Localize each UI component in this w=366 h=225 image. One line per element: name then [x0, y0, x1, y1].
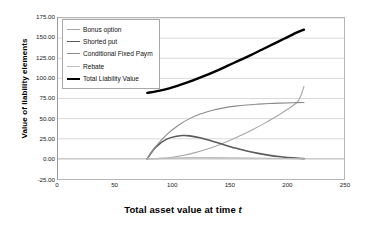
x-axis-title-text: Total asset value at time — [124, 204, 238, 215]
x-tick-label: 50 — [100, 182, 130, 188]
legend-item-label: Total Liability Value — [83, 75, 139, 82]
legend-item-label: Rebate — [83, 63, 104, 70]
y-tick-label: 0.00 — [15, 156, 55, 162]
legend-swatch-line-icon — [67, 29, 80, 30]
series-line — [147, 30, 304, 93]
series-line — [147, 103, 304, 159]
y-tick-label: 175.00 — [15, 14, 55, 20]
legend-item: Total Liability Value — [67, 73, 153, 85]
x-axis-tick-labels: 050100150200250 — [57, 182, 345, 194]
legend-swatch-line-icon — [67, 53, 80, 54]
y-tick-label: 75.00 — [15, 95, 55, 101]
x-axis-title-variable: t — [239, 204, 242, 215]
x-tick-label: 250 — [330, 182, 360, 188]
y-axis-tick-labels: -25.000.0025.0050.0075.00100.00125.00150… — [11, 17, 55, 180]
x-tick-label: 0 — [42, 182, 72, 188]
x-tick-label: 200 — [272, 182, 302, 188]
y-tick-label: 100.00 — [15, 75, 55, 81]
legend-item: Bonus option — [67, 23, 153, 35]
legend-item-label: Shorted put — [83, 38, 117, 45]
legend-item: Shorted put — [67, 35, 153, 47]
legend-swatch-line-icon — [67, 41, 80, 42]
legend-swatch-line-icon — [67, 66, 80, 67]
legend-item-label: Conditional Fixed Paym — [83, 50, 153, 57]
y-tick-label: 50.00 — [15, 116, 55, 122]
x-tick-label: 100 — [157, 182, 187, 188]
series-line — [147, 86, 304, 158]
legend-swatch-line-icon — [67, 78, 80, 80]
legend-item: Rebate — [67, 60, 153, 72]
legend-item: Conditional Fixed Paym — [67, 48, 153, 60]
x-tick-label: 150 — [215, 182, 245, 188]
liability-elements-chart: Value of liability elements -25.000.0025… — [0, 0, 366, 225]
chart-legend: Bonus optionShorted putConditional Fixed… — [62, 19, 160, 89]
y-tick-label: 125.00 — [15, 55, 55, 61]
x-axis-title: Total asset value at time t — [0, 204, 366, 215]
y-tick-label: 150.00 — [15, 34, 55, 40]
y-tick-label: 25.00 — [15, 136, 55, 142]
legend-item-label: Bonus option — [83, 26, 122, 33]
